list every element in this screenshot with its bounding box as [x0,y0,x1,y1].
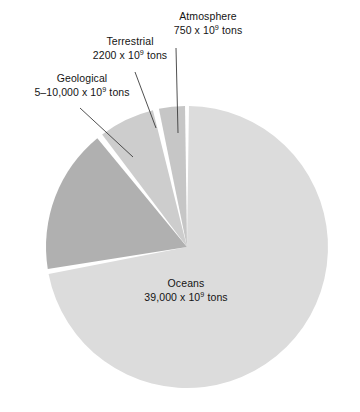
slice-label-oceans-name: Oceans [118,277,254,291]
slice-label-geological-name: Geological [18,72,146,86]
slice-label-terrestrial: Terrestrial 2200 x 109 tons [72,35,188,62]
slice-label-geological-value: 5–10,000 x 109 tons [18,86,146,100]
slice-label-oceans-value: 39,000 x 109 tons [118,291,254,305]
slice-label-terrestrial-value: 2200 x 109 tons [72,49,188,63]
slice-label-atmosphere-value: 750 x 109 tons [152,24,264,38]
slice-label-oceans: Oceans 39,000 x 109 tons [118,277,254,304]
pie-chart-figure: Geological 5–10,000 x 109 tons Terrestri… [0,0,360,412]
slice-label-atmosphere-name: Atmosphere [152,10,264,24]
slice-label-atmosphere: Atmosphere 750 x 109 tons [152,10,264,37]
slice-label-terrestrial-name: Terrestrial [72,35,188,49]
slice-label-geological: Geological 5–10,000 x 109 tons [18,72,146,99]
